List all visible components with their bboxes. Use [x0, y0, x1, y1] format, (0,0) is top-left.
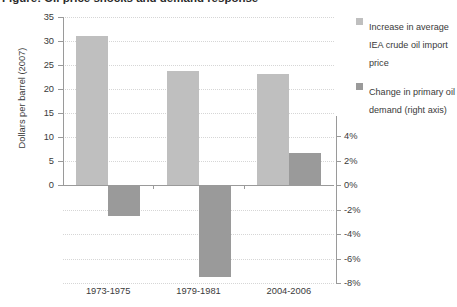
left-axis-spine	[63, 17, 64, 185]
left-axis-tick-label: 15	[6, 108, 54, 118]
chart-figure: Figure: Oil price shocks and demand resp…	[0, 0, 457, 307]
left-axis-tick-label: 5	[6, 156, 54, 166]
right-axis-tick-label: -2%	[344, 205, 361, 215]
right-axis-tick-label: -4%	[344, 229, 361, 239]
right-axis-tick-label: -6%	[344, 254, 361, 264]
right-axis-tick	[336, 210, 341, 211]
right-axis-tick-label: 2%	[344, 156, 357, 166]
category-tick	[244, 185, 245, 189]
price-swatch-icon	[356, 18, 363, 25]
right-axis-tick-label: 0%	[344, 180, 357, 190]
bar-price-2004-2006	[257, 74, 289, 185]
left-axis-tick-label: 30	[6, 36, 54, 46]
left-axis-tick-label: 25	[6, 60, 54, 70]
category-label-1979-1981: 1979-1981	[176, 286, 220, 296]
left-axis-tick-label: 35	[6, 12, 54, 22]
left-axis-tick	[58, 137, 63, 138]
bar-demand-2004-2006	[289, 153, 321, 185]
legend-label-price: Increase in average IEA crude oil import…	[369, 22, 449, 68]
chart-title-strip: Figure: Oil price shocks and demand resp…	[0, 0, 457, 7]
demand-swatch-icon	[356, 83, 363, 90]
left-axis-tick-label: 0	[6, 180, 54, 190]
left-axis-tick	[58, 161, 63, 162]
legend-item-demand: Change in primary oil demand (right axis…	[356, 81, 457, 117]
category-tick	[153, 185, 154, 189]
chart-legend: Increase in average IEA crude oil import…	[356, 16, 457, 128]
right-axis-tick	[336, 185, 341, 186]
left-axis-tick	[58, 113, 63, 114]
bar-demand-1973-1975	[108, 185, 140, 216]
gridline	[63, 17, 334, 18]
left-axis-tick	[58, 65, 63, 66]
category-label-2004-2006: 2004-2006	[267, 286, 311, 296]
gridline	[63, 283, 334, 284]
right-axis-tick-label: 4%	[344, 131, 357, 141]
bar-demand-1979-1981	[199, 185, 231, 277]
bar-price-1973-1975	[76, 36, 108, 185]
category-label-1973-1975: 1973-1975	[86, 286, 130, 296]
left-axis-tick-label: 10	[6, 132, 54, 142]
left-axis-tick	[58, 89, 63, 90]
left-axis-tick	[58, 41, 63, 42]
legend-label-demand: Change in primary oil demand (right axis…	[369, 87, 455, 115]
left-axis-tick	[58, 185, 63, 186]
right-axis-tick	[336, 259, 341, 260]
chart-title: Figure: Oil price shocks and demand resp…	[2, 0, 258, 4]
right-axis-tick	[336, 161, 341, 162]
right-axis-tick-label: -8%	[344, 278, 361, 288]
bar-price-1979-1981	[167, 71, 199, 185]
right-axis-tick	[336, 136, 341, 137]
right-axis-tick	[336, 234, 341, 235]
legend-item-price: Increase in average IEA crude oil import…	[356, 16, 457, 70]
left-axis-tick-label: 20	[6, 84, 54, 94]
left-axis-tick	[58, 17, 63, 18]
right-axis-tick	[336, 283, 341, 284]
